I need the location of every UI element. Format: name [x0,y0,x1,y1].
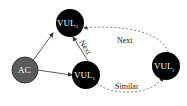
node-vul2: VUL2 [56,9,84,37]
node-vul2-label: VUL2 [57,18,79,29]
edge-ac-vul2 [32,33,53,62]
edge-label-similar: Similar [115,82,139,91]
node-vulj-label: VULj [154,61,174,72]
edge-label-next-2: Next [117,36,133,45]
node-ac: AC [12,57,38,83]
vulnerability-graph: Next Next Similar AC VUL2 VUL1 VULj [0,0,187,106]
node-ac-label: AC [18,65,31,75]
edge-ac-vul1 [37,70,72,75]
node-vul1: VUL1 [72,61,100,89]
node-vulj: VULj [152,52,180,80]
node-vul1-label: VUL1 [74,70,96,81]
